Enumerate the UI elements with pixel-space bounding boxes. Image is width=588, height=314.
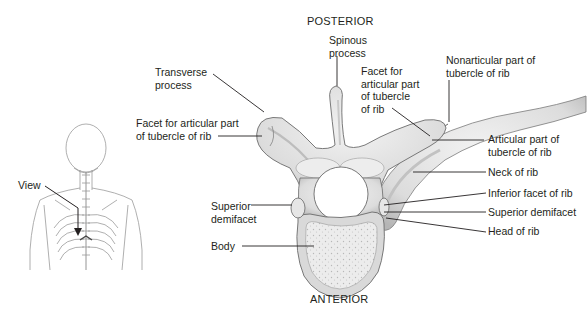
label-facet-articular-left: Facet for articular part of tubercle of … [136,117,239,142]
vertebral-foramen [314,167,368,221]
label-articular-part: Articular part of tubercle of rib [488,133,559,158]
superior-demifacet-left-shape [291,198,305,218]
label-transverse-process: Transverse process [155,66,207,91]
orientation-posterior: POSTERIOR [307,15,374,27]
label-superior-demifacet-right: Superior demifacet [488,206,576,219]
label-facet-articular-center: Facet for articular part of tubercle of … [361,65,419,115]
label-spinous-process: Spinous process [329,34,367,59]
orientation-anterior: ANTERIOR [310,293,368,305]
label-superior-demifacet-left: Superior demifacet [211,200,257,225]
superior-demifacet-right-shape [379,198,389,216]
inset-torso-drawing [30,124,142,270]
vertebral-body-shape [297,212,385,298]
label-body: Body [211,240,235,253]
label-head-of-rib: Head of rib [488,225,539,238]
label-inferior-facet: Inferior facet of rib [488,187,573,200]
view-arrow-head [74,228,82,236]
label-nonarticular-part: Nonarticular part of tubercle of rib [446,54,535,79]
view-arrow-line [45,186,78,228]
label-view: View [18,179,41,192]
label-neck-of-rib: Neck of rib [488,166,538,179]
